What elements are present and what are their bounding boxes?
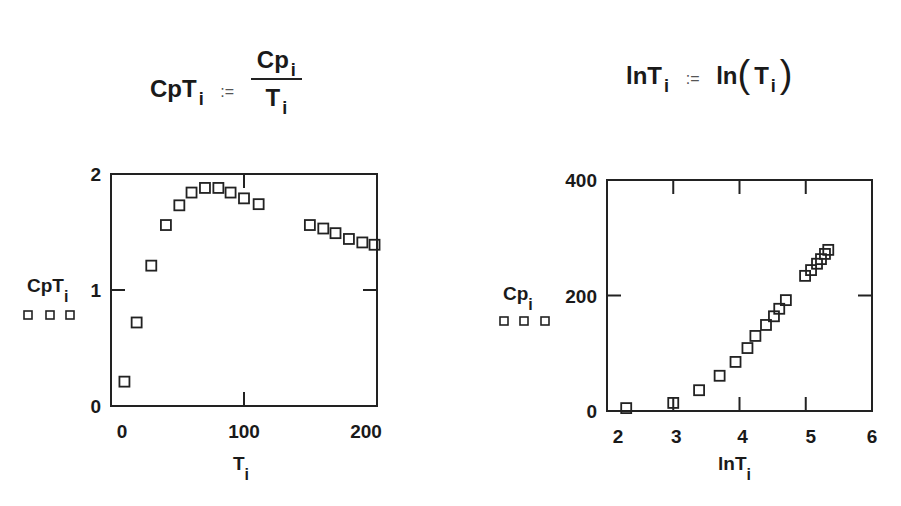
data-point-square-icon [318,224,328,234]
data-point-square-icon [132,317,142,327]
data-point-square-icon [331,228,341,238]
data-point-square-icon [357,237,367,247]
data-point-square-icon [146,261,156,271]
data-point-square-icon [694,385,704,395]
data-point-square-icon [239,193,249,203]
plot-cpt-vs-t: 0100200012TiCpTi [24,164,382,483]
data-point-square-icon [715,371,725,381]
data-point-square-icon [254,199,264,209]
x-tick-label: 3 [671,426,682,447]
x-axis-label: lnTi [718,453,751,483]
x-tick-label: 2 [613,426,624,447]
data-point-square-icon [226,188,236,198]
y-tick-label: 0 [586,401,597,422]
x-tick-label: 6 [867,426,878,447]
x-axis-label: Ti [233,453,249,483]
data-point-square-icon [213,183,223,193]
legend-marker-square-icon [500,317,508,325]
x-tick-label: 5 [805,426,816,447]
data-point-square-icon [742,343,752,353]
data-point-square-icon [119,377,129,387]
y-tick-label: 400 [565,170,597,191]
y-tick-label: 200 [565,286,597,307]
legend-marker-square-icon [520,317,528,325]
x-tick-label: 4 [737,426,748,447]
charts-canvas: 0100200012TiCpTi 234560200400lnTiCpi [0,0,901,506]
x-tick-label: 100 [228,421,260,442]
data-point-square-icon [161,220,171,230]
data-point-square-icon [187,188,197,198]
x-tick-label: 200 [350,421,382,442]
y-axis-label: Cpi [503,283,533,313]
data-point-square-icon [731,357,741,367]
data-point-square-icon [174,200,184,210]
legend-marker-square-icon [24,311,32,319]
y-tick-label: 0 [90,396,101,417]
x-tick-label: 0 [117,421,128,442]
data-point-square-icon [344,234,354,244]
y-tick-label: 1 [90,280,101,301]
data-point-square-icon [305,220,315,230]
plot-cp-vs-lnt: 234560200400lnTiCpi [500,170,877,483]
legend-marker-square-icon [66,311,74,319]
legend-marker-square-icon [46,311,54,319]
data-point-square-icon [370,240,380,250]
data-point-square-icon [200,183,210,193]
legend-marker-square-icon [541,317,549,325]
y-axis-label: CpTi [27,275,68,305]
plot-frame [111,174,377,406]
data-point-square-icon [750,331,760,341]
y-tick-label: 2 [90,164,101,185]
plot-frame [607,180,872,411]
